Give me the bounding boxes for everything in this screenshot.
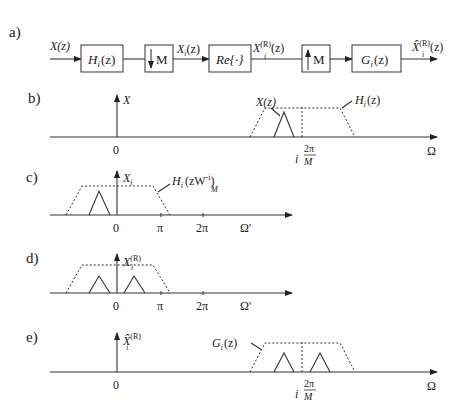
- svg-text:M: M: [303, 391, 313, 402]
- svg-text:i: i: [126, 343, 128, 352]
- svg-text:M: M: [210, 185, 219, 194]
- frequency-marker-label: i 2π M: [295, 143, 316, 167]
- panel-d-label: d): [26, 250, 39, 267]
- svg-text:i: i: [264, 52, 266, 61]
- real-part-label: Re{·}: [215, 52, 244, 67]
- negative-spectrum-triangle: [89, 276, 110, 293]
- upsampler-block: M: [302, 45, 330, 72]
- svg-text:Gi(z): Gi(z): [361, 52, 388, 69]
- panel-e-label: e): [26, 329, 38, 346]
- frequency-marker-label: i 2π M: [295, 378, 316, 402]
- panel-b-spectrum: b) X 0 Ω X(z) Hi(z) i 2π M: [28, 90, 437, 167]
- downsampler-factor: M: [156, 52, 168, 67]
- panel-a-label: a): [9, 24, 21, 41]
- svg-text:0: 0: [113, 143, 119, 157]
- panel-e-spectrum: e) X̂(R) i 0 Ω Gi(z) i 2π M: [26, 329, 437, 402]
- svg-text:i: i: [295, 387, 298, 401]
- svg-text:Xi(z): Xi(z): [176, 42, 200, 58]
- downsampler-block: M: [145, 45, 173, 72]
- svg-text:M: M: [303, 156, 313, 167]
- signal-spectrum-triangle: [89, 191, 110, 215]
- svg-text:Ω: Ω: [427, 144, 436, 158]
- svg-text:X̂(R)(z): X̂(R)(z): [411, 39, 443, 54]
- panel-b-label: b): [28, 90, 41, 107]
- upsampler-factor: M: [313, 52, 325, 67]
- svg-text:X(z): X(z): [255, 95, 276, 109]
- svg-text:2π: 2π: [304, 143, 314, 154]
- svg-text:X̂(R): X̂(R): [122, 332, 141, 348]
- svg-text:Hi(zW-i): Hi(zW-i): [171, 173, 214, 190]
- synthesis-filter-block: Gi(z): [352, 45, 401, 72]
- svg-text:Ω': Ω': [240, 299, 251, 313]
- panel-c-spectrum: c) Xi 0 π 2π Ω' Hi(zW-i) M: [26, 169, 292, 235]
- real-part-block: Re{·}: [209, 45, 251, 72]
- svg-text:Hi(z): Hi(z): [87, 52, 115, 69]
- svg-text:π: π: [157, 221, 163, 235]
- svg-text:i: i: [295, 152, 298, 166]
- svg-text:Gi(z): Gi(z): [212, 336, 237, 352]
- panel-c-label: c): [26, 169, 38, 186]
- svg-text:i: i: [422, 50, 424, 59]
- shifted-filter-passband: [66, 265, 170, 293]
- filter-bank-diagram: a) X(z) Hi(z) M Xi(z) Re{·}: [0, 0, 469, 420]
- panel-d-spectrum: d) X(R) i 0 π 2π Ω': [26, 250, 292, 313]
- positive-spectrum-triangle: [124, 276, 145, 293]
- analysis-filter-symbol: H: [87, 52, 98, 67]
- svg-text:X: X: [122, 93, 131, 107]
- input-signal-label: X(z): [49, 39, 70, 53]
- svg-text:2π: 2π: [304, 378, 314, 389]
- left-spectrum-triangle: [274, 353, 294, 372]
- svg-text:Ω': Ω': [240, 221, 251, 235]
- shifted-filter-passband: [66, 186, 170, 215]
- svg-text:0: 0: [113, 221, 119, 235]
- svg-text:2π: 2π: [196, 299, 208, 313]
- svg-text:0: 0: [113, 299, 119, 313]
- svg-text:i: i: [131, 263, 133, 272]
- svg-text:2π: 2π: [196, 221, 208, 235]
- svg-text:Hi(z): Hi(z): [354, 93, 380, 109]
- svg-text:Ω: Ω: [427, 379, 436, 393]
- right-spectrum-triangle: [310, 353, 330, 372]
- analysis-filter-block: Hi(z): [81, 45, 123, 72]
- panel-a-block-diagram: a) X(z) Hi(z) M Xi(z) Re{·}: [9, 24, 443, 72]
- svg-text:0: 0: [113, 378, 119, 392]
- signal-spectrum-triangle: [274, 112, 294, 137]
- svg-text:X(R)(z): X(R)(z): [252, 40, 284, 55]
- svg-text:Xi: Xi: [122, 171, 133, 187]
- svg-text:π: π: [157, 299, 163, 313]
